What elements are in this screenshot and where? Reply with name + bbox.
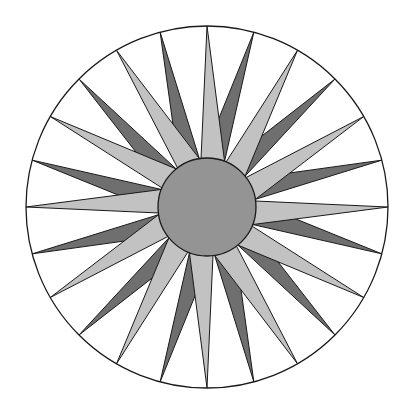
center-disc [158,158,256,256]
rosette-canvas [0,0,413,416]
rosette-figure [0,0,413,416]
